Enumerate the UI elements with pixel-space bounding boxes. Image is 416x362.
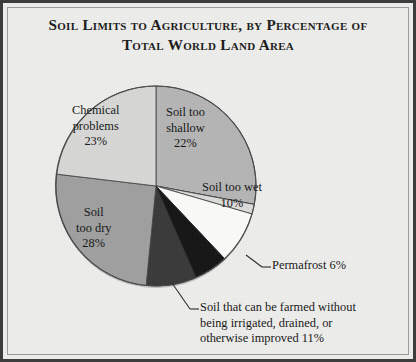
pie-callout-soil-farmable: Soil that can be farmed without being ir… xyxy=(200,300,400,347)
pie-label-chemical-problems-line-1: Chemical xyxy=(72,103,119,119)
pie-label-chemical-problems-line-2: problems xyxy=(72,119,119,135)
pie-callout-soil-farmable-line-1: Soil that can be farmed without xyxy=(200,300,400,316)
pie-label-soil-too-shallow-line-2: shallow xyxy=(166,121,205,137)
pie-label-soil-too-dry-line-1: Soil xyxy=(76,205,111,221)
pie-label-soil-too-dry-value: 28% xyxy=(76,236,111,252)
pie-label-soil-too-shallow-line-1: Soil too xyxy=(166,105,205,121)
pie-label-soil-too-wet: Soil too wet 10% xyxy=(202,180,262,211)
pie-label-soil-too-shallow: Soil too shallow 22% xyxy=(166,105,205,152)
pie-label-soil-too-wet-value: 10% xyxy=(202,196,262,212)
pie-label-soil-too-dry: Soil too dry 28% xyxy=(76,205,111,252)
pie-label-chemical-problems: Chemical problems 23% xyxy=(72,103,119,150)
pie-callout-soil-farmable-line-2: being irrigated, drained, or xyxy=(200,316,400,332)
pie-label-soil-too-wet-line-1: Soil too wet xyxy=(202,180,262,196)
figure-container: Soil Limits to Agriculture, by Percentag… xyxy=(0,0,416,362)
pie-callout-soil-farmable-line-3: otherwise improved 11% xyxy=(200,331,400,347)
pie-label-soil-too-dry-line-2: too dry xyxy=(76,221,111,237)
leader-line-soil-farmable-hook xyxy=(172,283,190,309)
pie-label-chemical-problems-value: 23% xyxy=(72,134,119,150)
pie-callout-permafrost-text: Permafrost 6% xyxy=(272,258,346,274)
pie-label-soil-too-shallow-value: 22% xyxy=(166,136,205,152)
leader-line-permafrost-hook xyxy=(246,255,262,267)
pie-callout-permafrost: Permafrost 6% xyxy=(272,258,346,274)
